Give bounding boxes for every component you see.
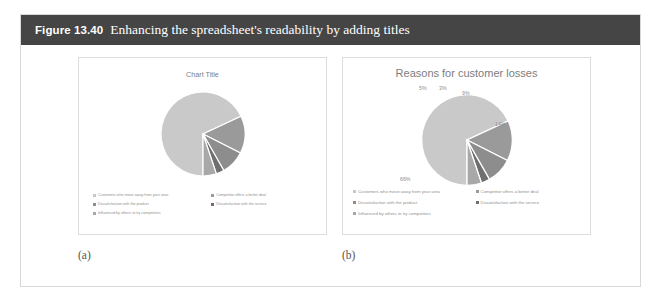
legend-label: Dissatisfaction with the product [358, 200, 417, 205]
legend-swatch-icon [476, 201, 479, 204]
panel-sub-caption-a: (a) [78, 249, 91, 261]
chart-legend-a: Customers who move away from your area C… [79, 193, 326, 220]
legend-label: Influenced by others to try competitors [98, 211, 161, 215]
panel-a: Chart Title Customers who move away from… [57, 45, 347, 288]
pie-svg-b [413, 86, 521, 194]
legend-item[interactable]: Dissatisfaction with the service [211, 202, 312, 206]
pie-chart-a [79, 84, 326, 189]
legend-row: Influenced by others to try competitors [93, 211, 312, 215]
pie-data-label: 9% [462, 90, 470, 96]
legend-label: Influenced by others to try competitors [358, 211, 431, 216]
legend-row: Influenced by others to try competitors [353, 211, 580, 216]
legend-item[interactable]: Dissatisfaction with the product [353, 200, 476, 205]
legend-item[interactable]: Influenced by others to try competitors [93, 211, 312, 215]
legend-label: Dissatisfaction with the product [98, 202, 149, 206]
panel-sub-caption-b: (b) [342, 249, 355, 261]
figure-caption-text: Enhancing the spreadsheet's readability … [110, 22, 409, 38]
legend-swatch-icon [93, 203, 96, 206]
legend-swatch-icon [211, 203, 214, 206]
legend-label: Dissatisfaction with the service [216, 202, 266, 206]
figure-number: Figure 13.40 [35, 24, 103, 36]
legend-item[interactable]: Customers who move away from your area [353, 189, 476, 194]
legend-item[interactable]: Customers who move away from your area [93, 193, 211, 197]
pie-data-label: 3% [439, 85, 447, 91]
panel-b: Reasons for customer losses 5% 3% 9% 14%… [321, 45, 611, 288]
legend-swatch-icon [93, 194, 96, 197]
legend-label: Competitor offers a better deal [481, 189, 539, 194]
chart-title-b: Reasons for customer losses [343, 67, 590, 79]
figure-panels: Chart Title Customers who move away from… [21, 45, 640, 286]
legend-item[interactable]: Dissatisfaction with the product [93, 202, 211, 206]
legend-row: Dissatisfaction with the product Dissati… [353, 200, 580, 205]
chart-card-b: Reasons for customer losses 5% 3% 9% 14%… [342, 57, 591, 235]
legend-label: Customers who move away from your area [358, 189, 440, 194]
legend-swatch-icon [353, 212, 356, 215]
pie-svg-a [153, 84, 253, 184]
pie-chart-b: 5% 3% 9% 14% 66% [343, 86, 590, 194]
chart-card-a: Chart Title Customers who move away from… [78, 57, 327, 235]
pie-data-label: 66% [400, 176, 410, 182]
legend-item[interactable]: Competitor offers a better deal [476, 189, 580, 194]
figure-frame: Figure 13.40 Enhancing the spreadsheet's… [20, 14, 641, 287]
legend-item[interactable]: Influenced by others to try competitors [353, 211, 580, 216]
legend-row: Customers who move away from your area C… [93, 193, 312, 197]
legend-label: Customers who move away from your area [98, 193, 168, 197]
chart-legend-b: Customers who move away from your area C… [343, 189, 590, 222]
chart-title-a: Chart Title [79, 70, 326, 79]
legend-item[interactable]: Competitor offers a better deal [211, 193, 312, 197]
legend-row: Dissatisfaction with the product Dissati… [93, 202, 312, 206]
pie-data-label: 14% [495, 121, 505, 127]
legend-swatch-icon [93, 212, 96, 215]
legend-swatch-icon [353, 201, 356, 204]
legend-swatch-icon [353, 190, 356, 193]
legend-row: Customers who move away from your area C… [353, 189, 580, 194]
legend-item[interactable]: Dissatisfaction with the service [476, 200, 580, 205]
legend-label: Dissatisfaction with the service [481, 200, 540, 205]
legend-swatch-icon [211, 194, 214, 197]
legend-label: Competitor offers a better deal [216, 193, 266, 197]
pie-data-label: 5% [419, 85, 427, 91]
figure-caption-bar: Figure 13.40 Enhancing the spreadsheet's… [21, 15, 640, 45]
legend-swatch-icon [476, 190, 479, 193]
